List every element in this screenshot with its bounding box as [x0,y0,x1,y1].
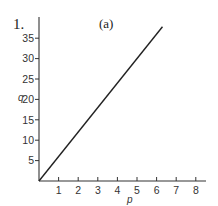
x-tick-label: 3 [95,184,101,196]
x-tick-label: 7 [173,184,179,196]
y-tick-label: 25 [22,73,34,85]
chart: 1. (a) 5101520253035 12345678 q p [0,0,218,206]
problem-number-text: 1. [13,16,24,32]
series-line [39,27,162,181]
axes [39,17,206,181]
y-tick-label: 5 [28,154,34,166]
y-axis-label: q [18,92,24,103]
problem-number: 1. [13,16,24,32]
x-tick-label: 5 [134,184,140,196]
x-axis-label: p [126,194,133,205]
y-tick-label: 15 [22,114,34,126]
y-tick-label: 20 [22,93,34,105]
y-tick-label: 10 [22,134,34,146]
x-tick-label: 8 [193,184,199,196]
panel-label: (a) [99,16,113,31]
x-tick-label: 1 [56,184,62,196]
x-tick-label: 2 [75,184,81,196]
y-axis-ticks: 5101520253035 [22,32,39,166]
x-tick-label: 4 [114,184,120,196]
y-tick-label: 35 [22,32,34,44]
x-tick-label: 6 [154,184,160,196]
data-series [39,27,162,181]
y-tick-label: 30 [22,52,34,64]
